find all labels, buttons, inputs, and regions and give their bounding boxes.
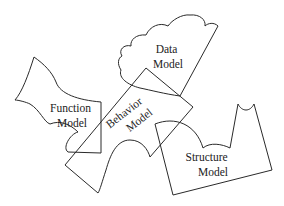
diagram-canvas: Data Model Function Model Behavior Model… — [0, 0, 284, 206]
data-model-label: Data Model — [153, 43, 183, 70]
model-overlap-diagram: Data Model Function Model Behavior Model… — [0, 0, 284, 206]
behavior-model-label: Behavior Model — [104, 93, 156, 142]
structure-model-label: Structure Model — [185, 151, 230, 178]
structure-model-shape — [155, 104, 272, 195]
function-model-label: Function Model — [50, 102, 94, 129]
